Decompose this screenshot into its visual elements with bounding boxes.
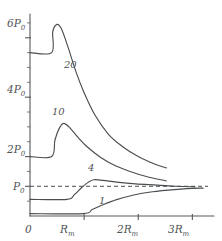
x-tick-label-0: 0	[25, 224, 32, 238]
curve-label-20: 20	[64, 60, 77, 70]
curve-label-4: 4	[88, 163, 94, 173]
x-tick-label-3Rm: 3Rm	[168, 224, 189, 238]
y-tick-label-2P0: 2P0	[7, 144, 25, 158]
y-tick-label-6P0: 6P0	[7, 18, 25, 32]
x-axis-major-ticks	[84, 214, 192, 220]
curve-20	[30, 24, 166, 168]
curve-group	[30, 24, 203, 214]
curve-label-10: 10	[52, 107, 65, 117]
curve-label-1: 1	[99, 196, 105, 206]
pressure-profile-chart: 6P0 4P0 2P0 P0 0 Rm 2Rm 3Rm 20 10 4 1	[0, 0, 222, 241]
y-tick-label-4P0: 4P0	[7, 84, 25, 98]
curve-1	[30, 188, 203, 214]
y-tick-label-P0: P0	[13, 181, 25, 195]
chart-canvas	[0, 0, 222, 241]
curve-10	[30, 123, 166, 181]
x-tick-label-2Rm: 2Rm	[117, 224, 138, 238]
x-tick-label-Rm: Rm	[60, 224, 75, 238]
